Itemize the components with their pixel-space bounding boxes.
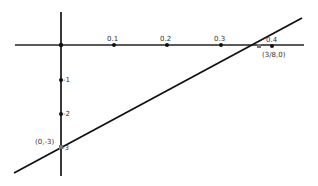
- x-label-0.2: 0.2: [160, 35, 171, 43]
- origin-point: [59, 43, 63, 47]
- x-intercept-label: (3/8,0): [262, 51, 286, 59]
- plotted-line: [14, 18, 302, 173]
- x-label-0.3: 0.3: [214, 35, 225, 43]
- x-intercept-point: [257, 44, 261, 48]
- y-label-neg2: -2: [63, 110, 70, 118]
- x-tick-0.1: [112, 43, 116, 47]
- x-tick-0.4: [270, 44, 274, 48]
- graph: 0.1 0.2 0.3 0.4 -1 -2 -3 (0,-3) (3/8,0): [0, 0, 318, 186]
- x-tick-0.2: [165, 43, 169, 47]
- x-label-0.1: 0.1: [107, 35, 118, 43]
- y-label-neg1: -1: [63, 76, 70, 84]
- y-label-neg3: -3: [62, 144, 69, 152]
- x-label-0.4: 0.4: [266, 36, 278, 44]
- y-intercept-label: (0,-3): [35, 138, 54, 146]
- x-tick-0.3: [219, 43, 223, 47]
